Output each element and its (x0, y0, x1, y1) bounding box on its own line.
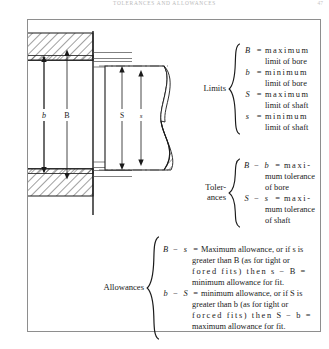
minus-operator: − (170, 244, 181, 255)
allowances-lhs-b: s (181, 244, 190, 255)
tolerances-lhs-a: B (242, 160, 251, 171)
limits-value: maximum (265, 89, 309, 100)
tolerances-lhs-a: S (242, 193, 251, 204)
tolerances-definitions: B − b = maxi- mum tolerance of bore S − … (242, 160, 315, 227)
limits-entry: B = maximum (242, 45, 309, 56)
tolerances-entry: B − b = maxi- (242, 160, 315, 171)
equals-operator: = (190, 288, 201, 299)
allowances-text-line4: minimum allowance for fit. (161, 277, 329, 288)
allowances-brace (146, 236, 160, 340)
allowances-lhs-a: b (161, 288, 170, 299)
page-number: 47 (318, 0, 323, 6)
limits-value: minimum (265, 67, 308, 78)
tolerances-brace (228, 158, 241, 228)
equals-operator: = (271, 193, 284, 204)
allowances-label: Allowances (60, 283, 144, 293)
limits-continuation: limit of shaft (242, 100, 309, 111)
tolerances-value: maxi- (284, 160, 312, 171)
label-bore-min: b (42, 111, 46, 120)
minus-operator: − (251, 193, 262, 204)
limits-symbol: b (242, 67, 253, 78)
allowances-text-line1: Maximum allowance, or if s is (201, 244, 303, 255)
limits-entry: S = maximum (242, 89, 309, 100)
limits-operator: = (253, 89, 265, 100)
allowances-group: Allowances B − s = Maximum allowance, or… (60, 236, 329, 340)
allowances-text-line3: fored fits) then s − B = (161, 266, 329, 277)
label-shaft-min: s (140, 112, 143, 120)
housing-section (28, 31, 93, 215)
limits-continuation: limit of shaft (242, 122, 309, 133)
tolerances-continuation: mum tolerance (242, 171, 315, 182)
allowances-text-line2: greater than b (as for tight or (161, 299, 329, 310)
limits-operator: = (253, 67, 265, 78)
tolerances-group: Toler- ances B − b = maxi- mum tolerance… (178, 158, 315, 228)
limits-symbol: B (242, 45, 253, 56)
tolerances-continuation: of bore (242, 182, 315, 193)
equals-operator: = (271, 160, 284, 171)
allowances-lhs-a: B (161, 244, 170, 255)
limits-value: minimum (265, 111, 308, 122)
tolerances-lhs-b: b (262, 160, 271, 171)
limits-value: maximum (265, 45, 309, 56)
allowances-lhs-b: S (181, 288, 190, 299)
tolerances-entry: S − s = maxi- (242, 193, 315, 204)
limits-group: Limits B = maximum limit of bore b = min… (186, 43, 309, 135)
label-shaft-max: S (120, 111, 124, 120)
minus-operator: − (170, 288, 181, 299)
limits-operator: = (253, 45, 265, 56)
tolerances-lhs-b: s (262, 193, 271, 204)
label-bore-max: B (64, 111, 69, 120)
limits-label: Limits (186, 84, 226, 94)
minus-operator: − (251, 160, 262, 171)
tolerances-label: Toler- ances (178, 183, 226, 202)
allowances-text-line1: minimum allowance, or if S is (201, 288, 302, 299)
tolerances-continuation: mum tolerance (242, 204, 315, 215)
allowances-entry: b − S = minimum allowance, or if S is (161, 288, 329, 299)
allowances-entry: B − s = Maximum allowance, or if s is (161, 244, 329, 255)
figure-frame: b B (27, 19, 321, 332)
bore-dimension-b: b (38, 56, 50, 174)
tolerances-label-line2: ances (178, 193, 226, 203)
limits-operator: = (253, 111, 265, 122)
allowances-text-line4: maximum allowance for fit. (161, 321, 329, 332)
limits-continuation: limit of bore (242, 56, 309, 67)
tolerances-continuation: of shaft (242, 215, 315, 226)
limits-symbol: S (242, 89, 253, 100)
allowances-text-line3: forced fits) then S − b = (161, 310, 329, 321)
allowances-text-line2: greater than B (as for tight or (161, 255, 329, 266)
limits-definitions: B = maximum limit of bore b = minimum li… (242, 45, 309, 134)
allowances-definitions: B − s = Maximum allowance, or if s is gr… (161, 244, 329, 333)
bore-dimension-B: B (61, 50, 73, 180)
limits-entry: b = minimum (242, 67, 309, 78)
limits-symbol: s (242, 111, 253, 122)
limits-continuation: limit of bore (242, 78, 309, 89)
running-head: TOLERANCES AND ALLOWANCES (0, 0, 329, 9)
equals-operator: = (190, 244, 201, 255)
limits-brace (228, 43, 241, 135)
limits-entry: s = minimum (242, 111, 309, 122)
tolerances-value: maxi- (284, 193, 312, 204)
